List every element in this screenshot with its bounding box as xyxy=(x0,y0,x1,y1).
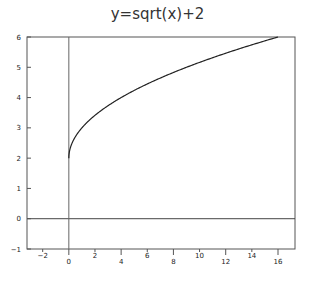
plot-area: −10123456−20246810121416 xyxy=(0,0,315,284)
y-tick-label: 0 xyxy=(17,215,21,223)
y-tick-label: 2 xyxy=(17,155,21,163)
x-tick-label: 0 xyxy=(67,258,71,266)
x-tick-label: −2 xyxy=(38,252,48,260)
x-tick-label: 12 xyxy=(221,258,230,266)
y-tick-label: −1 xyxy=(11,246,21,254)
y-tick-label: 5 xyxy=(17,64,21,72)
y-tick-label: 6 xyxy=(17,34,22,42)
x-tick-label: 2 xyxy=(93,252,97,260)
y-tick-label: 4 xyxy=(17,94,22,102)
function-curve xyxy=(69,37,278,158)
x-tick-label: 10 xyxy=(195,252,204,260)
y-tick-label: 1 xyxy=(17,185,21,193)
x-tick-label: 6 xyxy=(145,252,150,260)
y-tick-label: 3 xyxy=(17,124,21,132)
plot-frame xyxy=(27,37,295,249)
x-tick-label: 8 xyxy=(171,258,175,266)
x-tick-label: 16 xyxy=(274,258,283,266)
x-tick-label: 14 xyxy=(247,252,256,260)
x-tick-label: 4 xyxy=(119,258,124,266)
